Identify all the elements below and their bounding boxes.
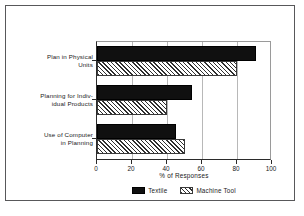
x-tick-label: 0 xyxy=(94,165,98,172)
x-axis-tick xyxy=(201,160,202,164)
x-axis-tick xyxy=(96,160,97,164)
bar-textile-use-of-computer-in-planning xyxy=(97,124,176,139)
legend-item-machine-tool: Machine Tool xyxy=(180,187,235,194)
legend-label-textile: Textile xyxy=(148,187,167,194)
y-category-label-use-of-computer-in-planning: Use of Computer in Planning xyxy=(1,131,93,146)
legend-swatch-textile-icon xyxy=(132,187,145,194)
x-axis-title: % of Responses xyxy=(96,172,272,179)
legend-item-textile: Textile xyxy=(132,187,167,194)
x-axis-tick xyxy=(131,160,132,164)
chart-figure: Plan in Physical Units Planning for Indi… xyxy=(0,0,304,216)
x-axis-tick xyxy=(166,160,167,164)
x-axis-tick xyxy=(271,160,272,164)
legend-label-machine-tool: Machine Tool xyxy=(196,187,235,194)
y-category-line: Planning for Indiv- xyxy=(1,92,93,100)
x-tick-label: 60 xyxy=(197,165,204,172)
chart-legend: Textile Machine Tool xyxy=(96,184,272,196)
y-category-line: Plan in Physical xyxy=(1,53,93,61)
y-category-label-planning-individual-products: Planning for Indiv- idual Products xyxy=(1,92,93,107)
legend-swatch-machine-tool-icon xyxy=(180,187,193,194)
x-tick-label: 100 xyxy=(266,165,277,172)
x-tick-label: 80 xyxy=(232,165,239,172)
bar-machine-plan-physical-units xyxy=(97,61,237,76)
y-axis-category-labels: Plan in Physical Units Planning for Indi… xyxy=(0,41,93,160)
y-category-line: Use of Computer xyxy=(1,131,93,139)
x-tick-label: 40 xyxy=(162,165,169,172)
bar-textile-planning-individual-products xyxy=(97,85,192,100)
y-category-line: Units xyxy=(1,61,93,69)
bar-machine-planning-individual-products xyxy=(97,100,167,115)
x-axis-tick xyxy=(236,160,237,164)
y-category-label-plan-physical-units: Plan in Physical Units xyxy=(1,53,93,68)
plot-area xyxy=(96,41,271,160)
bar-textile-plan-physical-units xyxy=(97,46,256,61)
y-category-line: in Planning xyxy=(1,139,93,147)
bar-machine-use-of-computer-in-planning xyxy=(97,139,185,154)
x-tick-label: 20 xyxy=(127,165,134,172)
y-category-line: idual Products xyxy=(1,100,93,108)
